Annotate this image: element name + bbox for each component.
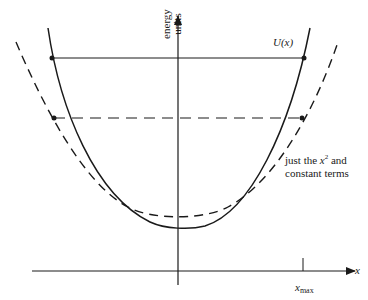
parabola-note: just the x2 and constant terms [285, 151, 349, 180]
parabola-note-line2: constant terms [285, 167, 349, 180]
note-text-a: just the [285, 154, 320, 166]
curve-label: U(x) [273, 36, 293, 48]
x-max-label: xmax [295, 281, 314, 295]
y-axis-label-line2: units [172, 2, 183, 46]
parabola-approximation-curve [16, 42, 338, 217]
x-max-sub: max [300, 286, 314, 295]
solid-level-left-point [50, 56, 55, 61]
parabola-note-line1: just the x2 and [285, 151, 349, 167]
dashed-level-right-point [300, 116, 305, 121]
y-axis-label: energy units [161, 2, 183, 46]
x-axis-label: x [355, 264, 360, 276]
diagram-canvas [0, 0, 368, 300]
potential-energy-diagram: energy units U(x) just the x2 and consta… [0, 0, 368, 300]
solid-level-right-point [302, 56, 307, 61]
dashed-level-left-point [52, 116, 57, 121]
note-text-b: and [328, 154, 347, 166]
